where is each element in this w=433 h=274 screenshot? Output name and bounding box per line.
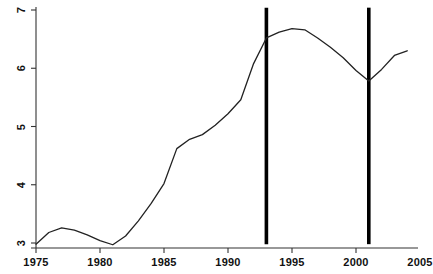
x-tick-label-1985: 1985	[151, 257, 176, 268]
y-tick-label-6: 6	[16, 65, 27, 71]
x-tick-label-2000: 2000	[343, 257, 368, 268]
x-tick-label-1990: 1990	[215, 257, 240, 268]
y-tick-label-3: 3	[16, 240, 27, 246]
x-tick-label-1975: 1975	[23, 257, 48, 268]
series-line-series-1	[36, 29, 407, 245]
x-tick-label-1980: 1980	[87, 257, 112, 268]
x-tick-label-1995: 1995	[279, 257, 304, 268]
y-tick-label-7: 7	[16, 7, 27, 13]
y-tick-label-4: 4	[16, 182, 27, 188]
x-tick-label-2005: 2005	[407, 257, 432, 268]
y-tick-label-5: 5	[16, 123, 27, 129]
